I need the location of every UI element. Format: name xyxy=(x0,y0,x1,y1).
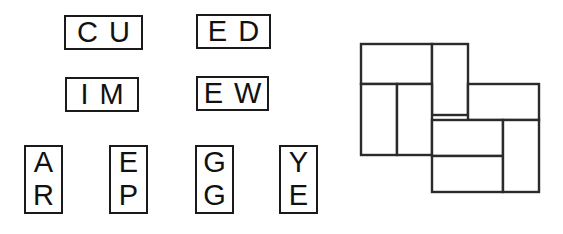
tile-letter: E xyxy=(204,79,223,108)
tile-letter: I xyxy=(80,80,88,109)
tile-ed: ED xyxy=(196,14,271,49)
tile-ye: YE xyxy=(279,145,318,214)
tile-cu: CU xyxy=(64,15,143,50)
tile-letter: G xyxy=(203,181,226,211)
tile-letter: E xyxy=(289,181,308,211)
tile-letter: G xyxy=(203,148,226,178)
tile-letter: M xyxy=(99,80,123,109)
tile-ep: EP xyxy=(109,145,148,214)
pinwheel-tiling-diagram xyxy=(355,38,545,203)
tile-ar: AR xyxy=(24,145,63,214)
rect-right-horizontal xyxy=(468,84,539,120)
tile-gg: GG xyxy=(195,145,234,214)
tile-letter: U xyxy=(109,18,130,47)
tile-letter: P xyxy=(119,181,138,211)
rect-left-vertical-a xyxy=(361,84,397,155)
tile-letter: Y xyxy=(289,148,308,178)
rect-top-middle-vertical xyxy=(432,44,468,115)
rect-top-left-horizontal xyxy=(361,44,432,84)
tile-letter: W xyxy=(234,79,261,108)
tile-im: IM xyxy=(65,77,139,112)
tile-letter: E xyxy=(208,17,227,46)
tile-letter: C xyxy=(77,18,98,47)
rect-bottom-mid-lower xyxy=(432,156,503,192)
rect-bottom-right-vert xyxy=(503,120,539,192)
figure-canvas: CUEDIMEWAREPGGYE xyxy=(0,0,563,234)
tile-letter: R xyxy=(33,181,54,211)
tile-letter: D xyxy=(238,17,259,46)
tile-letter: A xyxy=(34,148,53,178)
tile-letter: E xyxy=(119,148,138,178)
tile-ew: EW xyxy=(196,76,269,111)
rect-left-vertical-b xyxy=(397,84,432,155)
rect-bottom-mid-upper xyxy=(432,120,503,156)
